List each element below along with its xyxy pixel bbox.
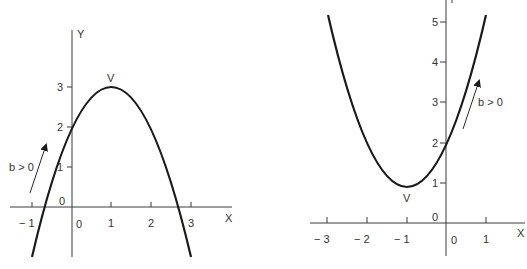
left-x-tick-label: 2: [148, 217, 154, 229]
right-x-tick-label: 0: [451, 234, 457, 246]
left-chart: − 1 0 1 2 3 0 1 2 3 Y X V b > 0: [9, 28, 233, 257]
left-x-axis-label: X: [225, 212, 233, 224]
right-x-tick-label: − 3: [314, 233, 330, 245]
left-x-tick-label: − 1: [19, 217, 35, 229]
left-y-tick-label: 2: [57, 121, 63, 133]
right-slope-arrow: [463, 81, 479, 129]
left-y-tick-label: 3: [57, 81, 63, 93]
left-vertex-label: V: [107, 72, 115, 84]
left-x-tick-label: 0: [76, 218, 82, 230]
right-x-axis-label: X: [517, 227, 525, 239]
left-parabola-curve: [32, 87, 191, 257]
right-annotation-label: b > 0: [478, 96, 503, 108]
right-vertex-label: V: [403, 192, 411, 204]
right-y-tick-label: 5: [432, 16, 438, 28]
right-y-tick-label: 0: [432, 211, 438, 223]
left-annotation-label: b > 0: [9, 161, 34, 173]
left-y-axis-label: Y: [77, 28, 85, 40]
left-x-tick-label: 3: [188, 217, 194, 229]
left-x-tick-label: 1: [108, 217, 114, 229]
right-x-tick-label: − 1: [394, 233, 410, 245]
right-x-tick-label: − 2: [354, 233, 370, 245]
figure: − 1 0 1 2 3 0 1 2 3 Y X V b > 0: [0, 0, 527, 269]
right-y-tick-label: 3: [432, 96, 438, 108]
right-y-tick-label: 1: [432, 177, 438, 189]
left-y-tick-label: 0: [59, 195, 65, 207]
right-x-tick-label: 1: [483, 233, 489, 245]
right-y-tick-label: 2: [432, 137, 438, 149]
right-chart: − 3 − 2 − 1 0 1 0 1 2 3 4 5 X V b > 0: [310, 0, 525, 256]
right-y-tick-label: 4: [432, 56, 438, 68]
right-parabola-curve: [328, 15, 486, 187]
